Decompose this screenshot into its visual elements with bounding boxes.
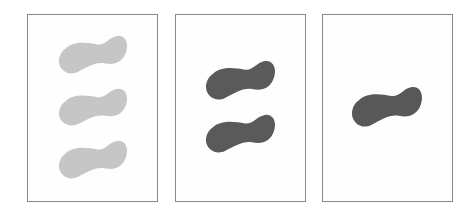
blob-shape [58,35,127,73]
blob-shape [58,88,127,125]
blob-shape [205,114,275,152]
panel-2 [175,14,306,202]
blob-shape [58,140,127,178]
blob-shape [205,60,275,99]
blob-shape [351,86,422,126]
